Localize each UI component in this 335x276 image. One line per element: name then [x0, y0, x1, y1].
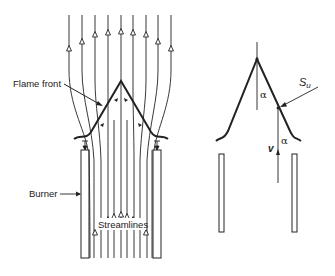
arrow-icon	[119, 212, 124, 218]
arrow-icon	[138, 123, 142, 127]
su-arrow-line	[282, 87, 318, 106]
arrow-icon	[156, 39, 161, 45]
flame-front-label: Flame front	[13, 78, 61, 89]
right-panel	[216, 42, 318, 232]
arrow-icon	[144, 32, 149, 38]
arrow-icon	[106, 30, 111, 36]
arrow-icon	[169, 46, 174, 52]
flame-cone	[216, 59, 301, 141]
burner-tube-right-right-panel	[292, 154, 297, 232]
v-label: v	[268, 143, 275, 154]
arrow-icon	[114, 98, 118, 102]
bunsen-flame-diagram: Flame front Burner Streamlines α α Su v	[0, 0, 335, 276]
alpha-top-label: α	[260, 89, 267, 100]
alpha-bottom-label: α	[281, 135, 288, 146]
arrow-icon	[93, 32, 98, 38]
arrow-icon	[93, 230, 98, 236]
burner-label: Burner	[29, 188, 58, 199]
arrow-icon	[67, 46, 72, 52]
arrow-icon	[131, 30, 136, 36]
arrow-icon	[119, 29, 124, 35]
burner-tube-left	[81, 150, 89, 258]
su-label: Su	[299, 76, 311, 90]
arrow-icon	[124, 98, 128, 102]
arrow-icon	[144, 230, 149, 236]
upper-arrowheads	[67, 29, 174, 52]
streamlines-label: Streamlines	[98, 219, 148, 230]
burner-tube-left-right-panel	[219, 154, 224, 232]
su-arrow-icon	[280, 102, 287, 107]
velocity-arrow-icon	[276, 149, 280, 155]
arrow-icon	[80, 39, 85, 45]
arrow-icon	[100, 123, 104, 127]
burner-tube-right	[153, 150, 161, 258]
su-subscript: u	[306, 81, 311, 90]
lower-streamlines	[89, 120, 152, 258]
burner-leader	[60, 192, 81, 197]
